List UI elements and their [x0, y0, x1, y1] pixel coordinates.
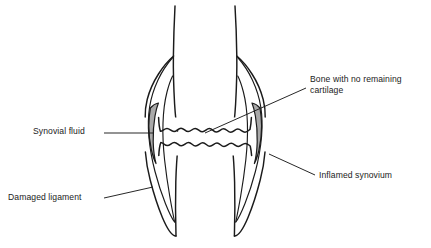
- ligament-group: [148, 58, 262, 223]
- lower-eroded-bone-surface: [159, 142, 252, 155]
- leader-bone-no-cartilage: [205, 88, 306, 133]
- leader-inflamed-synovium: [269, 154, 315, 175]
- leader-damaged-ligament: [104, 187, 153, 198]
- leader-lines-group: [104, 88, 315, 198]
- label-damaged-ligament: Damaged ligament: [8, 192, 100, 203]
- tibial-plateau-left-outline: [145, 152, 176, 236]
- knee-joint-diagram: Bone with no remaining cartilage Synovia…: [0, 0, 431, 248]
- label-synovial-fluid: Synovial fluid: [33, 126, 103, 137]
- anatomy-illustration: [0, 0, 431, 248]
- label-inflamed-synovium: Inflamed synovium: [319, 170, 425, 181]
- synovium-right: [252, 103, 262, 164]
- femur-shaft-right: [233, 6, 237, 131]
- tibia-group: [145, 147, 265, 236]
- tibial-plateau-right-outline: [234, 152, 265, 236]
- joint-surfaces-group: [159, 118, 252, 156]
- upper-eroded-bone-surface: [159, 118, 252, 133]
- tibia-shaft-left: [176, 147, 178, 236]
- femur-shaft-left: [173, 6, 177, 131]
- tibia-shaft-right: [232, 147, 234, 236]
- label-bone-no-cartilage: Bone with no remaining cartilage: [310, 74, 428, 95]
